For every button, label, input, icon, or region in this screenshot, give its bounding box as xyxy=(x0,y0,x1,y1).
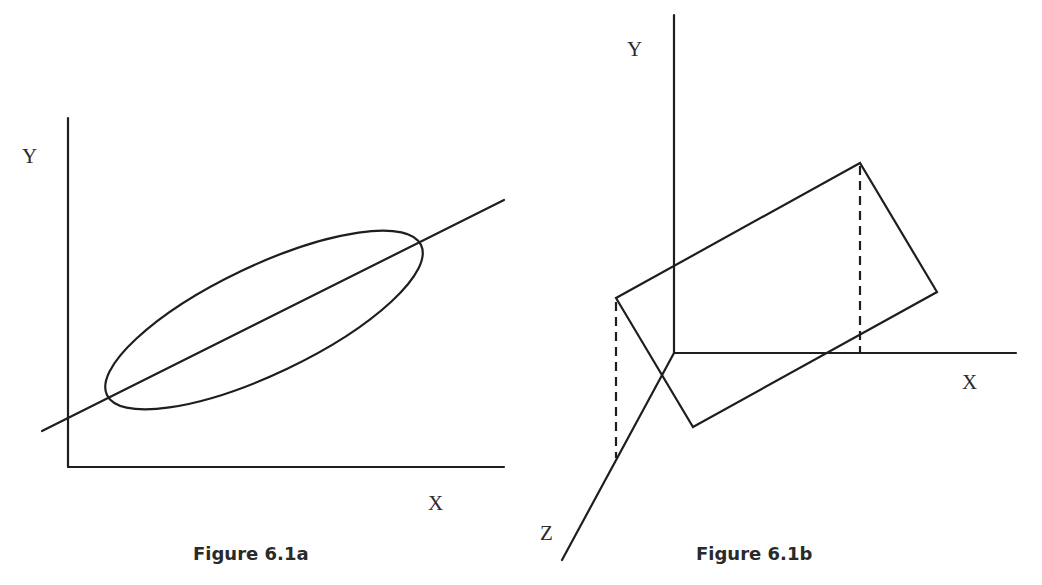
figure-6-1b: Y X Z Figure 6.1b xyxy=(540,15,1016,564)
y-axis-label: Y xyxy=(22,144,37,168)
figure-caption: Figure 6.1a xyxy=(193,543,309,564)
regression-plane xyxy=(616,163,937,427)
z-axis xyxy=(562,353,674,560)
figure-6-1a: Y X Figure 6.1a xyxy=(22,118,504,564)
y-axis-label: Y xyxy=(627,37,642,61)
figure-caption: Figure 6.1b xyxy=(696,543,812,564)
regression-line xyxy=(42,200,504,431)
figure-canvas: Y X Figure 6.1a Y X Z Figure 6.1b xyxy=(0,0,1042,585)
x-axis-label: X xyxy=(962,370,977,394)
z-axis-label: Z xyxy=(540,521,553,545)
x-axis-label: X xyxy=(428,491,443,515)
